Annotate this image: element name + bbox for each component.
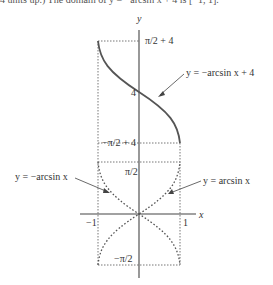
- axes: [80, 30, 196, 278]
- x-tick-neg1: −1: [86, 217, 97, 228]
- y-axis-label: y: [136, 13, 142, 24]
- y-tick-neg-pi2-plus4: −π/2 + 4: [102, 137, 136, 148]
- y-tick-neg-pi2: −π/2: [114, 253, 132, 264]
- label-neg-arcsin: y = −arcsin x: [15, 171, 68, 182]
- x-tick-1: 1: [183, 217, 188, 228]
- y-tick-pi2: π/2: [125, 166, 138, 177]
- label-arcsin: y = arcsin x: [203, 175, 250, 186]
- x-axis-label: x: [198, 209, 204, 220]
- y-tick-4: 4: [131, 87, 136, 98]
- label-shifted: y = −arcsin x + 4: [186, 67, 254, 78]
- arcsin-diagram: y x −1 1 π/2 + 4 4 −π/2 + 4 π/2 −π/2 y =…: [0, 0, 273, 285]
- y-tick-pi2-plus4: π/2 + 4: [145, 35, 173, 46]
